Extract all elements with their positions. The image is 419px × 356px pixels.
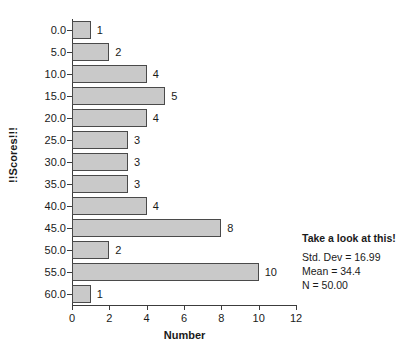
bar (72, 43, 109, 61)
bar-value-label: 2 (115, 46, 121, 58)
statistics-annotation: Take a look at this! Std. Dev = 16.99 Me… (302, 231, 414, 292)
y-tick-mark (67, 206, 72, 207)
y-tick-mark (67, 52, 72, 53)
bar (72, 109, 147, 127)
y-tick-label: 5.0 (51, 46, 66, 58)
x-tick-label: 8 (218, 312, 224, 324)
bar-value-label: 4 (153, 112, 159, 124)
bar (72, 153, 128, 171)
x-tick-mark (296, 305, 297, 310)
x-axis-title: Number (72, 329, 297, 341)
chart-figure: !!Scores!!! 10.025.0410.0515.0420.0325.0… (0, 0, 419, 356)
x-tick-mark (221, 305, 222, 310)
y-tick-mark (67, 140, 72, 141)
bar (72, 65, 147, 83)
y-tick-label: 0.0 (51, 24, 66, 36)
x-tick-label: 0 (69, 312, 75, 324)
y-tick-label: 20.0 (45, 112, 66, 124)
x-tick-label: 12 (290, 312, 302, 324)
y-tick-mark (67, 118, 72, 119)
bar-value-label: 5 (171, 90, 177, 102)
bar (72, 219, 221, 237)
bar-value-label: 10 (265, 266, 277, 278)
plot-area: 10.025.0410.0515.0420.0325.0330.0335.044… (72, 19, 296, 305)
y-tick-label: 55.0 (45, 266, 66, 278)
y-tick-label: 40.0 (45, 200, 66, 212)
bar (72, 87, 165, 105)
y-tick-label: 60.0 (45, 288, 66, 300)
y-tick-label: 45.0 (45, 222, 66, 234)
x-tick-mark (184, 305, 185, 310)
bar-value-label: 4 (153, 200, 159, 212)
y-tick-label: 30.0 (45, 156, 66, 168)
bar (72, 131, 128, 149)
y-axis-title: !!Scores!!! (0, 0, 26, 310)
bar-value-label: 3 (134, 178, 140, 190)
y-tick-mark (67, 74, 72, 75)
x-tick-label: 4 (144, 312, 150, 324)
x-tick-mark (109, 305, 110, 310)
bar (72, 21, 91, 39)
annotation-n: N = 50.00 (302, 278, 414, 292)
bar-value-label: 1 (97, 288, 103, 300)
bar (72, 197, 147, 215)
y-tick-mark (67, 250, 72, 251)
bar (72, 175, 128, 193)
x-tick-label: 10 (253, 312, 265, 324)
x-tick-label: 6 (181, 312, 187, 324)
x-tick-mark (147, 305, 148, 310)
y-tick-mark (67, 272, 72, 273)
bar (72, 263, 259, 281)
annotation-title: Take a look at this! (302, 231, 414, 245)
x-tick-mark (72, 305, 73, 310)
y-tick-label: 50.0 (45, 244, 66, 256)
x-tick-mark (259, 305, 260, 310)
y-tick-label: 25.0 (45, 134, 66, 146)
y-tick-mark (67, 162, 72, 163)
y-tick-label: 15.0 (45, 90, 66, 102)
bar-value-label: 3 (134, 156, 140, 168)
x-tick-label: 2 (106, 312, 112, 324)
y-tick-mark (67, 96, 72, 97)
y-tick-mark (67, 184, 72, 185)
y-tick-mark (67, 228, 72, 229)
annotation-std-dev: Std. Dev = 16.99 (302, 250, 414, 264)
bar-value-label: 1 (97, 24, 103, 36)
y-tick-label: 10.0 (45, 68, 66, 80)
bar (72, 241, 109, 259)
bar (72, 285, 91, 303)
y-tick-mark (67, 294, 72, 295)
bar-value-label: 4 (153, 68, 159, 80)
bar-value-label: 2 (115, 244, 121, 256)
y-tick-mark (67, 30, 72, 31)
bar-value-label: 8 (227, 222, 233, 234)
y-axis-title-text: !!Scores!!! (7, 127, 19, 183)
y-tick-label: 35.0 (45, 178, 66, 190)
annotation-mean: Mean = 34.4 (302, 264, 414, 278)
bar-value-label: 3 (134, 134, 140, 146)
